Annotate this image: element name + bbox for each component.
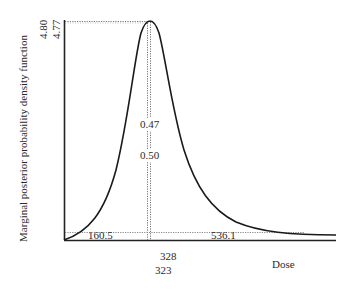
density-curve	[64, 21, 336, 240]
x-tick-323: 323	[155, 264, 172, 276]
y-tick-4-77: 4.77	[50, 19, 62, 39]
prob-047-label: 0.47	[140, 118, 160, 130]
x-axis-label: Dose	[272, 258, 295, 270]
prob-050-label: 0.50	[140, 149, 160, 161]
interval-high-label: 536.1	[211, 229, 236, 241]
y-tick-4-80: 4.80	[37, 19, 49, 39]
x-tick-328: 328	[160, 250, 177, 262]
interval-low-label: 160.5	[88, 229, 113, 241]
y-axis-label: Marginal posterior probability density f…	[17, 35, 29, 242]
density-chart: Marginal posterior probability density f…	[0, 0, 352, 289]
